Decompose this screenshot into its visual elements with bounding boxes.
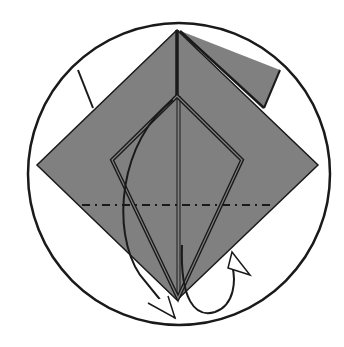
- origami-diagram: [0, 0, 344, 347]
